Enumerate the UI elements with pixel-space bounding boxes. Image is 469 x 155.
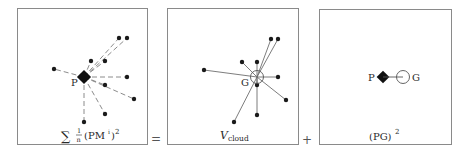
edge-line (84, 77, 134, 99)
data-point-dot (103, 59, 107, 63)
edge-line (84, 38, 127, 77)
caption-right: (PG) 2 (369, 128, 399, 142)
svg-text:cloud: cloud (228, 134, 249, 143)
svg-text:1: 1 (77, 127, 81, 135)
data-point-dot (240, 60, 244, 64)
data-point-dot (255, 60, 259, 64)
data-point-dot (202, 68, 206, 72)
edge-line (257, 77, 286, 100)
label-g-middle: G (241, 77, 249, 88)
svg-text:n: n (77, 136, 81, 144)
data-point-dot (284, 98, 288, 102)
data-point-dot (89, 59, 93, 63)
label-p-left: P (71, 77, 78, 88)
data-point-dot (255, 113, 259, 117)
edge-line (84, 77, 105, 114)
edge-line (204, 70, 257, 77)
data-point-dot (125, 36, 129, 40)
edge-line (242, 62, 257, 77)
data-point-dot (52, 67, 56, 71)
equals-operator: = (151, 132, 161, 146)
data-point-dot (103, 83, 107, 87)
edge-line (84, 38, 119, 77)
svg-text:∑: ∑ (61, 129, 71, 144)
data-point-dot (82, 120, 86, 124)
plus-operator: + (302, 133, 312, 147)
svg-text:(PM: (PM (84, 130, 105, 141)
caption-middle: V cloud (220, 129, 249, 143)
caption-left: ∑ 1 n (PM i ) 2 (61, 127, 119, 144)
variance-decomposition-diagram: P ∑ 1 n (PM i ) 2 G V cloud P G (PG) 2 =… (0, 0, 469, 155)
data-point-dot (103, 112, 107, 116)
svg-text:2: 2 (395, 128, 399, 136)
left-data-points (52, 36, 136, 124)
data-point-dot (117, 36, 121, 40)
data-point-dot (132, 97, 136, 101)
label-g-right: G (412, 72, 420, 83)
data-point-dot (269, 37, 273, 41)
left-dashed-edges (54, 38, 134, 122)
data-point-dot (232, 120, 236, 124)
svg-text:(PG): (PG) (369, 131, 392, 142)
label-p-right: P (368, 72, 375, 83)
point-p-diamond-icon (77, 70, 91, 84)
data-point-dot (125, 75, 129, 79)
data-point-dot (276, 75, 280, 79)
data-point-dot (276, 37, 280, 41)
svg-text:2: 2 (115, 128, 119, 136)
svg-text:i: i (108, 128, 110, 135)
